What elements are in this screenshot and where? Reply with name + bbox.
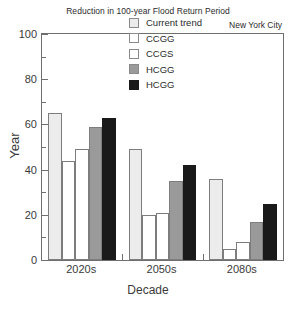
- bar: [89, 127, 103, 260]
- y-axis-tick-label: 80: [25, 73, 37, 85]
- y-axis-tick: 0: [42, 260, 48, 261]
- legend-item: CCGS: [129, 48, 202, 59]
- bar: [250, 222, 264, 260]
- y-axis-label: Year: [7, 116, 22, 176]
- x-axis-tick-label: 2020s: [66, 263, 96, 275]
- bar: [236, 242, 250, 260]
- y-axis-minor-tick: [42, 57, 46, 58]
- bar: [102, 118, 116, 260]
- legend-swatch-icon: [129, 33, 139, 43]
- y-axis-tick: 80: [42, 79, 48, 80]
- bar: [129, 149, 143, 260]
- legend-swatch-icon: [129, 18, 139, 28]
- y-axis-minor-tick: [42, 147, 46, 148]
- x-axis-label: Decade: [0, 283, 296, 297]
- bar: [183, 165, 197, 260]
- legend-swatch-icon: [129, 80, 139, 90]
- bar: [62, 161, 76, 260]
- legend-item-label: CCGG: [146, 33, 175, 44]
- y-axis-minor-tick: [42, 102, 46, 103]
- y-axis-tick-label: 100: [19, 28, 37, 40]
- legend-item: HCGG: [129, 64, 202, 75]
- y-axis-tick-label: 40: [25, 164, 37, 176]
- legend-item-label: Current trend: [146, 17, 202, 28]
- legend-swatch-icon: [129, 49, 139, 59]
- legend-item: HCGG: [129, 79, 202, 90]
- x-axis-tick: [203, 254, 204, 260]
- x-axis-tick-label: 2080s: [227, 263, 257, 275]
- legend-item: Current trend: [129, 17, 202, 28]
- x-axis-tick: [122, 254, 123, 260]
- legend-swatch-icon: [129, 64, 139, 74]
- chart-legend: Current trendCCGGCCGSHCGGHCGG: [129, 17, 202, 90]
- y-axis-minor-tick: [42, 237, 46, 238]
- y-axis-tick-label: 20: [25, 209, 37, 221]
- y-axis-tick: 100: [42, 34, 48, 35]
- chart-figure: Reduction in 100-year Flood Return Perio…: [0, 0, 296, 309]
- bar: [223, 249, 237, 260]
- bar: [142, 215, 156, 260]
- legend-item-label: CCGS: [146, 48, 173, 59]
- chart-subtitle: New York City: [229, 20, 282, 30]
- y-axis-tick: 60: [42, 124, 48, 125]
- y-axis-tick-label: 0: [31, 254, 37, 266]
- bar: [75, 149, 89, 260]
- legend-item-label: HCGG: [146, 64, 175, 75]
- legend-item: CCGG: [129, 33, 202, 44]
- bar: [48, 113, 62, 260]
- x-axis-tick-label: 2050s: [147, 263, 177, 275]
- bar: [169, 181, 183, 260]
- bar: [209, 179, 223, 260]
- y-axis-minor-tick: [42, 192, 46, 193]
- chart-title: Reduction in 100-year Flood Return Perio…: [0, 6, 296, 16]
- y-axis-tick: 40: [42, 170, 48, 171]
- y-axis-tick: 20: [42, 215, 48, 216]
- y-axis-tick-label: 60: [25, 118, 37, 130]
- bar: [156, 213, 170, 260]
- legend-item-label: HCGG: [146, 79, 175, 90]
- bar: [263, 204, 277, 261]
